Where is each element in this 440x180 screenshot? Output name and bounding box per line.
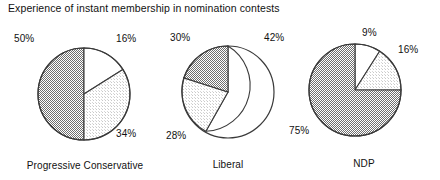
slice-label-light-ndp: 16% — [398, 44, 418, 55]
slice-label-white-pc: 16% — [116, 33, 136, 44]
slice-label-light-pc: 34% — [116, 128, 136, 139]
slice-label-white-liberal: 42% — [264, 32, 284, 43]
pie-caption-progressive-conservative: Progressive Conservative — [0, 160, 170, 172]
slice-label-dark-ndp: 75% — [289, 125, 309, 136]
pie-slice-dark-50[interactable] — [38, 48, 84, 140]
pie-caption-liberal: Liberal — [158, 159, 298, 171]
pie-chart-ndp: 9% 16% 75% NDP — [288, 0, 440, 180]
pie-caption-ndp: NDP — [288, 158, 440, 170]
slice-label-white-ndp: 9% — [362, 27, 377, 38]
pie-graphic-ndp — [307, 42, 403, 142]
pie-graphic-liberal — [180, 44, 276, 144]
pie-chart-liberal: 30% 42% 28% Liberal — [158, 0, 298, 180]
pie-chart-progressive-conservative: 50% 16% 34% Progressive Conservative — [0, 0, 170, 180]
slice-label-dark-pc: 50% — [14, 33, 34, 44]
slice-label-dark-liberal: 30% — [170, 32, 190, 43]
slice-label-light-liberal: 28% — [166, 130, 186, 141]
